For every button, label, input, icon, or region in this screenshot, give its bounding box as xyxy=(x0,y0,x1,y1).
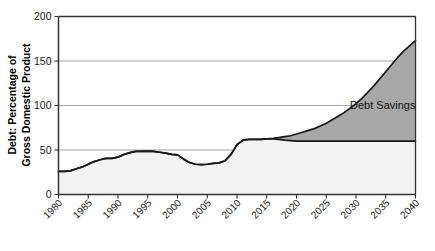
y-tick-label-200: 200 xyxy=(34,10,52,22)
debt-savings-label: Debt Savings xyxy=(350,99,416,111)
y-tick-label-150: 150 xyxy=(34,55,52,67)
y-axis-title-line2: Gross Domestic Product xyxy=(20,43,32,167)
y-tick-label-100: 100 xyxy=(34,99,52,111)
chart-annotations: Debt Savings xyxy=(350,99,416,111)
y-tick-label-0: 0 xyxy=(46,188,52,200)
y-axis-title-line1: Debt: Percentage of xyxy=(6,55,18,155)
y-tick-label-50: 50 xyxy=(40,144,52,156)
chart-container: 050100150200 198019851990199520002005201… xyxy=(0,0,435,251)
debt-percentage-gdp-chart: 050100150200 198019851990199520002005201… xyxy=(0,0,435,251)
